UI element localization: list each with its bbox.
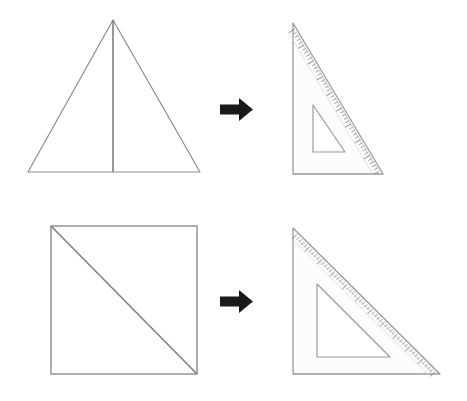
square-with-diagonal <box>51 226 197 374</box>
diagram-canvas: Triangle with median line 30-60-90 degre… <box>0 0 467 401</box>
diagram-svg <box>0 0 467 401</box>
